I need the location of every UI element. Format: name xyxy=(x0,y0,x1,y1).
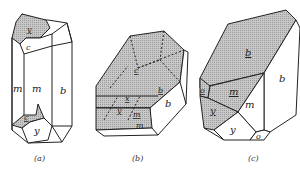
label-c-o-bottom: o xyxy=(256,132,261,141)
crystal-diagram: y c m m b c y (a) c b b x y m m xyxy=(0,0,300,171)
label-a-m-front: m xyxy=(32,83,41,94)
label-b-b-right: b xyxy=(165,98,171,109)
label-b-c: c xyxy=(134,66,139,75)
label-a-c-bottom: c xyxy=(24,113,29,122)
label-c-b-right: b xyxy=(279,73,285,84)
label-a-m-left: m xyxy=(13,83,22,94)
label-b-x: x xyxy=(125,94,130,103)
caption-a: (a) xyxy=(34,154,45,163)
label-c-m-right: m xyxy=(245,99,254,110)
label-c-y-left: y xyxy=(209,105,216,116)
label-a-c-top: c xyxy=(26,43,31,52)
label-c-y-bottom: y xyxy=(229,124,236,135)
label-c-m-left: m xyxy=(229,86,238,97)
label-c-b-top: b xyxy=(245,47,251,58)
label-b-m-upper: m xyxy=(133,110,141,119)
label-b-b-upper: b xyxy=(158,86,163,95)
caption-c: (c) xyxy=(248,154,259,163)
crystal-a xyxy=(12,14,72,143)
label-a-y-bottom: y xyxy=(33,125,40,136)
label-b-y: y xyxy=(116,106,122,115)
label-a-b-right: b xyxy=(60,85,66,96)
label-a-y-top: y xyxy=(26,25,32,34)
label-c-o-left: o xyxy=(200,86,205,95)
caption-b: (b) xyxy=(132,154,143,163)
label-b-m-lower: m xyxy=(136,121,144,130)
